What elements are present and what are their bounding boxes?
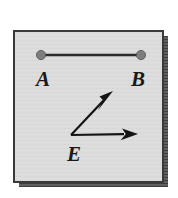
geometry-figure: A B E bbox=[0, 0, 178, 198]
label-a: A bbox=[34, 67, 50, 91]
figure-canvas: A B E bbox=[0, 0, 178, 198]
label-e: E bbox=[66, 142, 81, 166]
point-b bbox=[136, 50, 145, 59]
label-b: B bbox=[130, 67, 145, 91]
point-a bbox=[36, 50, 45, 59]
